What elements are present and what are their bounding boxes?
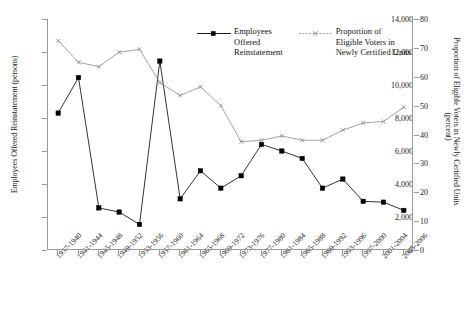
y2-tick-label: 10 [420, 217, 428, 226]
legend-cross-marker-icon [299, 29, 333, 39]
x-tick-mark [281, 250, 282, 254]
y2-tick-mark [414, 19, 419, 20]
x-tick-mark [261, 250, 262, 254]
y2-tick-mark [414, 163, 419, 164]
x-tick-mark [301, 250, 302, 254]
x-tick-mark [159, 250, 160, 254]
legend-label: Employees Offered Reinstatement [234, 26, 283, 58]
y2-tick-mark [414, 135, 419, 136]
x-tick-mark [362, 250, 363, 254]
y2-tick-label: 30 [420, 159, 428, 168]
x-tick-mark [200, 250, 201, 254]
x-tick-mark [98, 250, 99, 254]
x-tick-mark [403, 250, 404, 254]
y2-tick-label: 80 [420, 15, 428, 24]
y2-tick-label: 60 [420, 72, 428, 81]
y2-tick-label: 40 [420, 130, 428, 139]
y2-tick-label: 50 [420, 101, 428, 110]
x-tick-mark [179, 250, 180, 254]
x-tick-mark [383, 250, 384, 254]
x-tick-mark [240, 250, 241, 254]
y2-tick-label: 0 [420, 246, 424, 255]
right-axis-title: Proportion of Eligible Voters in Newly C… [452, 7, 461, 237]
x-tick-mark [118, 250, 119, 254]
x-tick-mark [322, 250, 323, 254]
chart-legend: Employees Offered ReinstatementProportio… [197, 26, 411, 58]
x-tick-mark [57, 250, 58, 254]
right-axis-unit-label: (percent) [444, 12, 453, 242]
y2-tick-mark [414, 48, 419, 49]
series-1 [56, 59, 406, 227]
y2-tick-mark [414, 221, 419, 222]
left-axis-title: Employees Offered Reinstatement (persons… [10, 25, 19, 225]
y2-tick-mark [414, 77, 419, 78]
chart-figure: Employees Offered Reinstatement (persons… [0, 0, 464, 309]
y2-tick-mark [414, 192, 419, 193]
x-tick-mark [78, 250, 79, 254]
y-tick-mark [42, 250, 47, 251]
legend-square-marker-icon [197, 29, 231, 39]
x-tick-mark [139, 250, 140, 254]
y2-tick-label: 70 [420, 43, 428, 52]
x-tick-mark [342, 250, 343, 254]
legend-entry: Proportion of Eligible Voters in Newly C… [299, 26, 412, 58]
y2-tick-mark [414, 106, 419, 107]
legend-label: Proportion of Eligible Voters in Newly C… [336, 26, 412, 58]
legend-entry: Employees Offered Reinstatement [197, 26, 283, 58]
y2-tick-label: 20 [420, 188, 428, 197]
x-tick-mark [220, 250, 221, 254]
